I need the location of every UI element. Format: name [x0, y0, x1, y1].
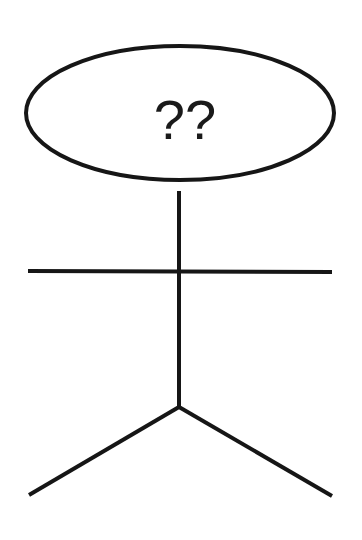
arms-line — [28, 271, 332, 272]
right-leg-line — [179, 407, 332, 496]
head-label: ?? — [154, 88, 216, 151]
left-leg-line — [29, 407, 179, 495]
stick-figure-diagram: ?? — [0, 0, 362, 540]
